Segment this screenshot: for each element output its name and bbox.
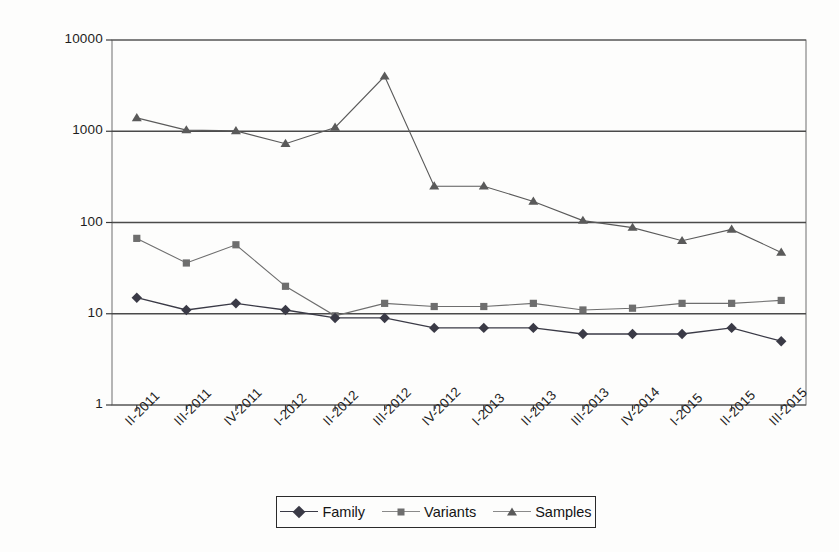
y-axis-tick-label: 10000 xyxy=(64,31,103,46)
triangle-marker-icon xyxy=(493,505,531,519)
legend-label-variants: Variants xyxy=(424,504,476,520)
legend-item-family[interactable]: Family xyxy=(280,504,365,520)
square-marker-icon xyxy=(382,505,420,519)
diamond-marker-icon xyxy=(280,505,318,519)
y-axis-tick-label: 10 xyxy=(88,305,103,320)
legend-item-samples[interactable]: Samples xyxy=(493,504,591,520)
y-axis-tick-label: 1000 xyxy=(72,122,103,137)
chart-canvas xyxy=(0,0,839,552)
legend-label-family: Family xyxy=(322,504,365,520)
series-samples xyxy=(132,71,786,255)
chart-legend: Family Variants Samples xyxy=(276,496,596,528)
log-line-chart: 100001000100101II-2011III-2011IV-2011I-2… xyxy=(0,0,839,552)
legend-item-variants[interactable]: Variants xyxy=(382,504,476,520)
legend-label-samples: Samples xyxy=(535,504,591,520)
y-axis-tick-label: 100 xyxy=(80,214,103,229)
series-variants xyxy=(133,235,785,320)
y-axis-tick-label: 1 xyxy=(95,396,103,411)
series-family xyxy=(132,292,787,346)
